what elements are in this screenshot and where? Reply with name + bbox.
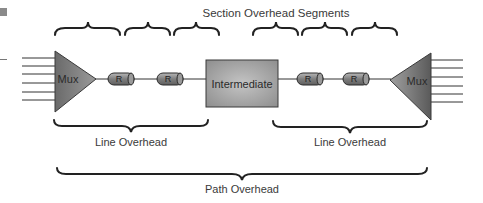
section-brace-3 bbox=[174, 22, 219, 35]
repeater-3-label: R bbox=[305, 74, 312, 84]
left-mux-label: Mux bbox=[58, 73, 79, 85]
section-overhead-title: Section Overhead Segments bbox=[202, 7, 349, 19]
left-input-lines bbox=[22, 58, 56, 100]
right-mux-label: Mux bbox=[407, 75, 428, 87]
sonet-overhead-diagram bbox=[0, 0, 483, 203]
section-brace-6 bbox=[352, 22, 397, 35]
section-brace-5 bbox=[302, 22, 347, 35]
path-overhead-brace bbox=[57, 168, 427, 180]
line-overhead-braces bbox=[54, 120, 427, 133]
intermediate-label: Intermediate bbox=[211, 78, 272, 90]
path-overhead-label: Path Overhead bbox=[205, 183, 279, 195]
repeater-2-label: R bbox=[165, 74, 172, 84]
section-brace-1 bbox=[55, 22, 120, 35]
repeater-1-label: R bbox=[116, 74, 123, 84]
line-overhead-label-right: Line Overhead bbox=[314, 136, 386, 148]
line-overhead-label-left: Line Overhead bbox=[95, 136, 167, 148]
repeater-4-label: R bbox=[351, 74, 358, 84]
section-brace-2 bbox=[125, 22, 170, 35]
right-input-lines bbox=[430, 60, 463, 102]
line-overhead-brace-left bbox=[54, 120, 208, 132]
section-brace-4 bbox=[253, 22, 298, 35]
line-overhead-brace-right bbox=[273, 121, 427, 133]
section-overhead-braces bbox=[55, 22, 397, 35]
